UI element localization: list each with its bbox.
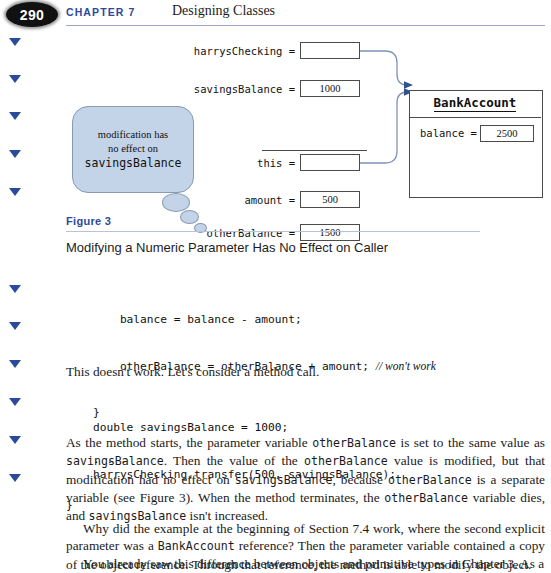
stack-frame-divider	[262, 150, 367, 151]
text-run: . Then the value of the	[164, 453, 304, 468]
callout-bubble: modification has no effect on savingsBal…	[72, 106, 194, 193]
object-title: BankAccount	[409, 90, 541, 117]
figure-caption-divider	[66, 231, 480, 232]
code-term: otherBalance	[388, 473, 472, 487]
callout-line-1: modification has	[98, 128, 168, 142]
var-box-amount: 500	[300, 191, 360, 208]
triangle-down-icon	[9, 285, 21, 293]
object-field-balance-box: 2500	[480, 125, 534, 142]
callout-tail-dot-2	[180, 210, 199, 224]
triangle-down-icon	[9, 398, 21, 406]
figure-caption: Modifying a Numeric Parameter Has No Eff…	[66, 240, 388, 255]
var-box-this	[300, 154, 360, 171]
var-box-harryschecking	[300, 42, 360, 59]
var-label-amount: amount =	[160, 194, 295, 206]
text-run: , because	[333, 472, 388, 487]
text-run: As the method starts, the parameter vari…	[66, 435, 312, 450]
paragraph-method-starts: As the method starts, the parameter vari…	[66, 434, 545, 525]
text-run: is set to the same value as	[396, 435, 545, 450]
chapter-title: Designing Classes	[172, 3, 275, 19]
object-field-balance: balance =	[420, 127, 477, 139]
figure-number: Figure 3	[66, 215, 111, 227]
chapter-label: CHAPTER 7	[66, 6, 135, 18]
code-term: savingsBalance	[235, 473, 333, 487]
var-label-savingsbalance: savingsBalance =	[160, 83, 295, 95]
var-label-this: this =	[160, 157, 295, 169]
code-term: otherBalance	[304, 454, 388, 468]
var-box-savingsbalance: 1000	[300, 80, 360, 97]
var-label-otherbalance: otherBalance =	[150, 227, 295, 239]
header-divider	[66, 25, 545, 26]
page-number: 290	[6, 2, 58, 27]
page-header: 290 CHAPTER 7 Designing Classes	[0, 0, 551, 30]
code-term: otherBalance	[384, 491, 468, 505]
triangle-down-icon	[9, 436, 21, 444]
code-term: savingsBalance	[66, 454, 164, 468]
object-title-text: BankAccount	[434, 95, 517, 112]
code-line: balance = balance - amount;	[66, 312, 436, 328]
object-title-divider	[409, 117, 541, 118]
triangle-down-icon	[9, 360, 21, 368]
code-term: BankAccount	[158, 539, 235, 553]
var-label-harryschecking: harrysChecking =	[160, 45, 295, 57]
code-term: otherBalance	[312, 436, 396, 450]
triangle-down-icon	[9, 474, 21, 482]
triangle-down-icon	[9, 322, 21, 330]
callout-line-2: no effect on	[108, 142, 158, 156]
paragraph-you-already-saw: You already saw this difference between …	[66, 555, 545, 572]
paragraph-this-doesnt-work: This doesn't work. Let's consider a meth…	[66, 363, 545, 380]
figure-diagram: modification has no effect on savingsBal…	[0, 33, 551, 213]
var-box-otherbalance: 1500	[300, 224, 360, 241]
